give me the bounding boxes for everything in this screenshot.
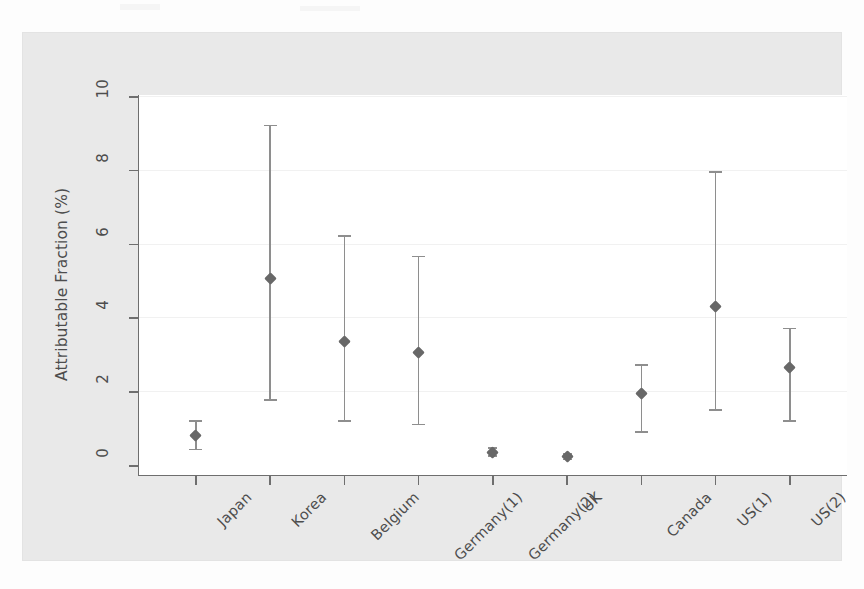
y-axis-tick bbox=[129, 317, 138, 319]
error-bar-cap-lower bbox=[189, 449, 202, 451]
x-axis-tick-label: US(1) bbox=[734, 489, 775, 530]
error-bar-line bbox=[789, 328, 791, 420]
x-axis-tick bbox=[418, 476, 420, 485]
gridline bbox=[139, 96, 847, 97]
error-bar-cap-upper bbox=[783, 328, 796, 330]
x-axis-tick-label: Belgium bbox=[368, 489, 422, 543]
x-axis-tick bbox=[641, 476, 643, 485]
error-bar-cap-lower bbox=[338, 420, 351, 422]
error-bar-line bbox=[715, 172, 717, 410]
y-axis-tick bbox=[129, 391, 138, 393]
scan-artifact-band bbox=[120, 4, 160, 10]
y-axis-tick-label: 8 bbox=[94, 153, 112, 187]
error-bar-line bbox=[269, 126, 271, 401]
scan-artifact-band-2 bbox=[300, 6, 360, 11]
error-bar-cap-lower bbox=[635, 431, 648, 433]
x-axis-tick bbox=[492, 476, 494, 485]
error-bar-cap-lower bbox=[264, 399, 277, 401]
error-bar-cap-upper bbox=[635, 364, 648, 366]
y-axis-tick bbox=[129, 244, 138, 246]
y-axis-tick-label: 0 bbox=[94, 448, 112, 482]
y-axis-title: Attributable Fraction (%) bbox=[53, 187, 71, 380]
y-axis-tick-label: 6 bbox=[94, 227, 112, 261]
y-axis-tick bbox=[129, 170, 138, 172]
error-bar-cap-upper bbox=[709, 171, 722, 173]
x-axis-tick bbox=[344, 476, 346, 485]
figure-page: Attributable Fraction (%) 0246810JapanKo… bbox=[0, 0, 864, 589]
y-axis-tick-label: 2 bbox=[94, 374, 112, 408]
x-axis-tick bbox=[789, 476, 791, 485]
gridline bbox=[139, 391, 847, 392]
error-bar-cap-lower bbox=[412, 424, 425, 426]
x-axis-tick-label: Canada bbox=[664, 489, 715, 540]
plot-region bbox=[138, 95, 847, 476]
y-axis-tick bbox=[129, 465, 138, 467]
error-bar-cap-upper bbox=[338, 235, 351, 237]
error-bar-line bbox=[344, 236, 346, 421]
chart-canvas: Attributable Fraction (%) 0246810JapanKo… bbox=[23, 33, 841, 560]
error-bar-cap-lower bbox=[783, 420, 796, 422]
y-axis-tick bbox=[129, 96, 138, 98]
error-bar-cap-upper bbox=[264, 125, 277, 127]
x-axis-tick bbox=[269, 476, 271, 485]
x-axis-tick-label: Korea bbox=[288, 489, 329, 530]
error-bar-line bbox=[418, 257, 420, 425]
y-axis-tick-label: 10 bbox=[94, 79, 112, 113]
x-axis-tick-label: Japan bbox=[214, 489, 255, 530]
x-axis-tick-label: Germany(1) bbox=[451, 489, 525, 563]
error-bar-cap-lower bbox=[709, 409, 722, 411]
x-axis-tick bbox=[566, 476, 568, 485]
error-bar-cap-upper bbox=[412, 256, 425, 258]
gridline bbox=[139, 244, 847, 245]
gridline bbox=[139, 170, 847, 171]
x-axis-tick bbox=[715, 476, 717, 485]
error-bar-cap-upper bbox=[189, 420, 202, 422]
y-axis-tick-label: 4 bbox=[94, 300, 112, 334]
gridline bbox=[139, 317, 847, 318]
x-axis-tick bbox=[195, 476, 197, 485]
